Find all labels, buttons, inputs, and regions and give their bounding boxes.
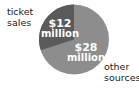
slice-value-other-line2: million <box>67 52 105 63</box>
label-other-line1: other <box>104 61 139 72</box>
label-other-line2: sources <box>104 72 139 83</box>
label-ticket-line1: ticket <box>7 6 33 17</box>
label-ticket-sales: ticket sales <box>7 6 33 28</box>
slice-value-ticket-line2: million <box>41 28 79 39</box>
pie-chart: $12 million $28 million ticket sales oth… <box>0 0 139 90</box>
label-ticket-line2: sales <box>7 17 33 28</box>
label-other-sources: other sources <box>104 61 139 83</box>
